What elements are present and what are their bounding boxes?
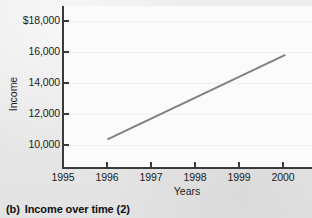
x-tick-label-1996: 1996 <box>84 171 130 183</box>
x-tick-2000 <box>282 162 284 168</box>
y-tick-label-16000: 16,000 <box>0 45 60 57</box>
y-tick-18000 <box>64 20 69 22</box>
gridline-18000 <box>63 21 312 22</box>
figure-caption: (b)Income over time (2) <box>6 203 130 215</box>
x-tick-1995 <box>62 162 64 168</box>
x-axis-line <box>62 167 312 169</box>
x-tick-1996 <box>106 162 108 168</box>
caption-text: Income over time (2) <box>25 203 130 215</box>
gridline-12000 <box>63 114 312 115</box>
gridline-10000 <box>63 145 312 146</box>
y-tick-12000 <box>64 113 69 115</box>
figure-container: $18,000 16,000 14,000 12,000 10,000 1995… <box>0 0 312 218</box>
gridline-14000 <box>63 83 312 84</box>
x-tick-label-1995: 1995 <box>40 171 86 183</box>
gridline-16000 <box>63 52 312 53</box>
x-tick-1999 <box>238 162 240 168</box>
y-tick-label-18000: $18,000 <box>0 14 60 26</box>
x-tick-label-1998: 1998 <box>172 171 218 183</box>
x-tick-1997 <box>150 162 152 168</box>
y-axis-title: Income <box>7 59 19 129</box>
x-tick-1998 <box>194 162 196 168</box>
x-axis-title: Years <box>62 185 312 197</box>
plot-area <box>63 6 312 168</box>
x-tick-label-1999: 1999 <box>216 171 262 183</box>
y-tick-label-10000: 10,000 <box>0 138 60 150</box>
y-tick-10000 <box>64 144 69 146</box>
x-tick-label-2000: 2000 <box>260 171 306 183</box>
caption-tag: (b) <box>6 203 20 215</box>
x-tick-label-1997: 1997 <box>128 171 174 183</box>
y-tick-16000 <box>64 51 69 53</box>
y-tick-14000 <box>64 82 69 84</box>
